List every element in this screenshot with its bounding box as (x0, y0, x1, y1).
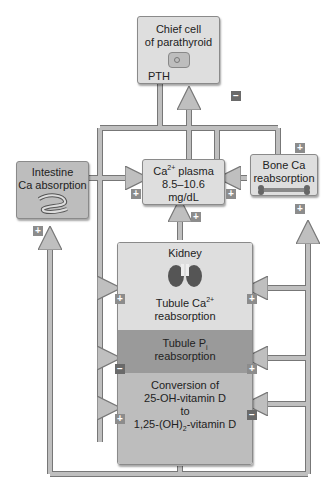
kidney-icon (165, 262, 205, 290)
intestine-label-1: Intestine (17, 166, 88, 179)
kidney-vitamin-d-section: Conversion of 25-OH-vitamin D to 1,25-(O… (118, 373, 252, 465)
plus-badge: + (191, 212, 201, 222)
plus-badge: + (33, 226, 43, 236)
kidney-calcium-section: Kidney Tubule Ca2+ reabsorption (118, 243, 252, 330)
plasma-calcium-box: Ca2+ plasma 8.5–10.6 mg/dL (142, 159, 225, 205)
intestine-icon (33, 193, 73, 215)
bone-label-1: Bone Ca (251, 159, 317, 172)
plus-badge: + (115, 414, 125, 424)
plus-badge: + (115, 294, 125, 304)
tubule-ca-label: Tubule Ca (156, 297, 206, 309)
bone-box: Bone Ca reabsorption (250, 154, 318, 196)
chief-cell-label-2: of parathyroid (138, 36, 219, 49)
chief-cell-box: Chief cell of parathyroid PTH (137, 16, 220, 84)
kidney-box: Kidney Tubule Ca2+ reabsorption Tubule P… (117, 242, 253, 465)
minus-badge: − (115, 364, 125, 374)
pth-label: PTH (138, 70, 219, 83)
tubule-pi-label: Tubule P (162, 337, 206, 349)
conversion-line-1: Conversion of (118, 379, 252, 392)
bone-icon (256, 185, 312, 195)
plus-badge: + (247, 364, 257, 374)
plasma-label: plasma (178, 165, 213, 177)
kidney-title: Kidney (118, 247, 252, 260)
cell-icon (168, 52, 190, 68)
plus-badge: + (295, 143, 305, 153)
tubule-ca-reabsorption: reabsorption (118, 310, 252, 323)
conversion-line-3: to (118, 405, 252, 418)
minus-badge: − (247, 410, 257, 420)
plus-badge: + (226, 189, 236, 199)
plus-badge: + (131, 189, 141, 199)
plasma-ion: Ca (153, 165, 167, 177)
tubule-ca-charge: 2+ (206, 296, 214, 303)
chief-cell-label-1: Chief cell (138, 23, 219, 36)
plus-badge: + (295, 204, 305, 214)
plasma-ion-charge: 2+ (167, 164, 175, 171)
intestine-box: Intestine Ca absorption (16, 161, 89, 219)
intestine-label-2: Ca absorption (17, 179, 88, 192)
conversion-line-4-prefix: 1,25-(OH) (134, 418, 183, 430)
kidney-phosphate-section: Tubule Pi reabsorption (118, 330, 252, 373)
conversion-line-2: 25-OH-vitamin D (118, 392, 252, 405)
minus-badge: − (231, 91, 241, 101)
plasma-range: 8.5–10.6 (143, 178, 224, 191)
conversion-line-4-suffix: -vitamin D (187, 418, 237, 430)
tubule-pi-reabsorption: reabsorption (118, 350, 252, 363)
plus-badge: + (247, 294, 257, 304)
plasma-unit: mg/dL (143, 191, 224, 204)
bone-label-2: reabsorption (251, 172, 317, 185)
